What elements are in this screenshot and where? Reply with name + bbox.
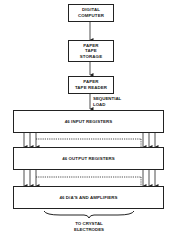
da-amplifiers-label: 46 D/A'S AND AMPLIFIERS	[59, 195, 117, 201]
da-amplifiers-box: 46 D/A'S AND AMPLIFIERS	[13, 186, 164, 209]
input-registers-label: 46 INPUT REGISTERS	[65, 119, 113, 125]
paper-tape-reader-box: PAPER TAPE READER	[68, 76, 114, 94]
brace-icon	[44, 211, 134, 218]
input-registers-box: 46 INPUT REGISTERS	[13, 110, 164, 133]
sequential-load-line-2: LOAD	[93, 102, 121, 108]
paper-tape-storage-box: PAPER TAPE STORAGE	[68, 40, 114, 62]
crystal-electrodes-line-2: ELECTRODES	[0, 227, 173, 233]
paper-tape-storage-line-3: STORAGE	[80, 54, 102, 60]
output-registers-box: 46 OUTPUT REGISTERS	[13, 147, 164, 170]
digital-computer-line-2: COMPUTER	[78, 13, 104, 19]
paper-tape-reader-line-2: TAPE READER	[75, 85, 107, 91]
output-registers-label: 46 OUTPUT REGISTERS	[62, 156, 115, 162]
sequential-load-line-1: SEQUENTIAL	[93, 96, 121, 102]
digital-computer-box: DIGITAL COMPUTER	[68, 4, 114, 22]
sequential-load-label: SEQUENTIAL LOAD	[93, 96, 121, 107]
crystal-electrodes-label: TO CRYSTAL ELECTRODES	[0, 221, 173, 232]
